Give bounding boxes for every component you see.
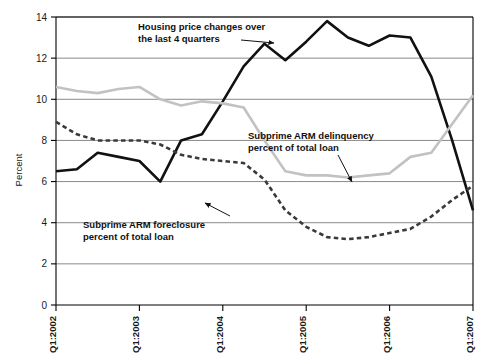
housing-price-annotation-line2: the last 4 quarters xyxy=(138,33,220,44)
chart-background xyxy=(0,0,484,357)
x-tick-label: Q1:2002 xyxy=(47,316,58,353)
y-tick-label: 14 xyxy=(36,12,48,23)
chart-container: 02468101214 Q1:2002Q1:2003Q1:2004Q1:2005… xyxy=(0,0,484,357)
foreclosure-annotation-line1: Subprime ARM foreclosure xyxy=(83,219,205,230)
y-tick-label: 6 xyxy=(41,176,47,187)
y-tick-label: 4 xyxy=(41,217,47,228)
x-tick-label: Q1:2005 xyxy=(297,315,308,353)
delinquency-annotation-line2: percent of total loan xyxy=(248,142,339,153)
y-tick-label: 8 xyxy=(41,135,47,146)
housing-price-annotation-line1: Housing price changes over xyxy=(138,21,266,32)
y-tick-label: 12 xyxy=(36,53,48,64)
x-tick-label: Q1:2003 xyxy=(130,316,141,353)
foreclosure-annotation-line2: percent of total loan xyxy=(83,231,174,242)
line-chart: 02468101214 Q1:2002Q1:2003Q1:2004Q1:2005… xyxy=(0,0,484,357)
delinquency-annotation-line1: Subprime ARM delinquency xyxy=(248,130,375,141)
x-tick-label: Q1:2004 xyxy=(214,315,225,353)
y-tick-label: 10 xyxy=(36,94,48,105)
y-tick-label: 2 xyxy=(41,258,47,269)
y-tick-label: 0 xyxy=(41,300,47,311)
y-axis-title: Percent xyxy=(13,153,24,186)
x-tick-label: Q1:2006 xyxy=(381,316,392,353)
x-tick-label: Q1:2007 xyxy=(464,316,475,353)
